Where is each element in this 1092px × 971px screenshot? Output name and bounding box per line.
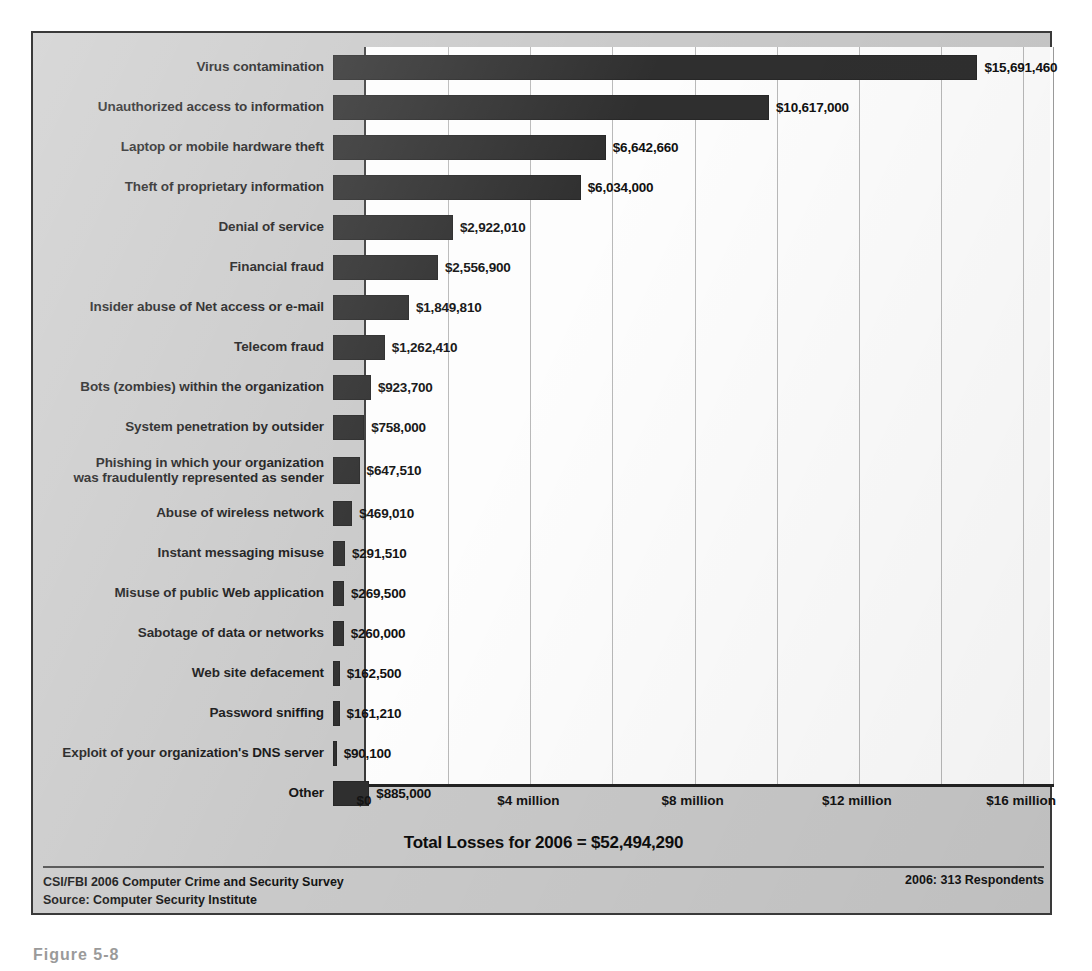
- bar: [333, 295, 409, 320]
- chart-panel: Virus contamination$15,691,460Unauthoriz…: [31, 31, 1052, 915]
- x-axis-tick-label: $4 million: [497, 793, 559, 808]
- category-label: Abuse of wireless network: [37, 505, 333, 520]
- bar: [333, 541, 345, 566]
- bar-row: Telecom fraud$1,262,410: [37, 327, 1050, 367]
- category-label: Misuse of public Web application: [37, 585, 333, 600]
- bar: [333, 621, 344, 646]
- bar-cell: $260,000: [333, 613, 1050, 653]
- footer-respondents: 2006: 313 Respondents: [905, 873, 1044, 887]
- category-label: Laptop or mobile hardware theft: [37, 139, 333, 154]
- bar-row: Bots (zombies) within the organization$9…: [37, 367, 1050, 407]
- bar-value-label: $6,642,660: [613, 140, 679, 155]
- bar-row: Misuse of public Web application$269,500: [37, 573, 1050, 613]
- category-label: Insider abuse of Net access or e-mail: [37, 299, 333, 314]
- bar-value-label: $469,010: [359, 506, 414, 521]
- bar: [333, 661, 340, 686]
- x-axis-tick-label: $12 million: [822, 793, 892, 808]
- bar-value-label: $2,556,900: [445, 260, 511, 275]
- bar-value-label: $1,262,410: [392, 340, 458, 355]
- bar-cell: $291,510: [333, 533, 1050, 573]
- bar: [333, 215, 453, 240]
- bar: [333, 95, 769, 120]
- bar-row: Laptop or mobile hardware theft$6,642,66…: [37, 127, 1050, 167]
- bar-cell: $647,510: [333, 447, 1050, 493]
- category-label: Instant messaging misuse: [37, 545, 333, 560]
- bar-cell: $758,000: [333, 407, 1050, 447]
- bar-cell: $1,262,410: [333, 327, 1050, 367]
- category-label: Virus contamination: [37, 59, 333, 74]
- bar-value-label: $923,700: [378, 380, 433, 395]
- bar-value-label: $161,210: [347, 706, 402, 721]
- x-axis-tick-label: $8 million: [661, 793, 723, 808]
- bar-row: Web site defacement$162,500: [37, 653, 1050, 693]
- bar-cell: $6,642,660: [333, 127, 1050, 167]
- bar-value-label: $90,100: [344, 746, 391, 761]
- bar-value-label: $269,500: [351, 586, 406, 601]
- bar-row: Password sniffing$161,210: [37, 693, 1050, 733]
- bar: [333, 335, 385, 360]
- bar-cell: $6,034,000: [333, 167, 1050, 207]
- footer-source-line: Source: Computer Security Institute: [43, 891, 344, 909]
- bar-row: Virus contamination$15,691,460: [37, 47, 1050, 87]
- bar-cell: $162,500: [333, 653, 1050, 693]
- footer-survey-title: CSI/FBI 2006 Computer Crime and Security…: [43, 873, 344, 891]
- bar-cell: $469,010: [333, 493, 1050, 533]
- bar-value-label: $647,510: [367, 463, 422, 478]
- bar: [333, 457, 360, 484]
- bar-row: Abuse of wireless network$469,010: [37, 493, 1050, 533]
- bar: [333, 375, 371, 400]
- bar: [333, 415, 364, 440]
- bar-value-label: $1,849,810: [416, 300, 482, 315]
- category-label: Financial fraud: [37, 259, 333, 274]
- bar-cell: $15,691,460: [333, 47, 1057, 87]
- bar-row: Phishing in which your organizationwas f…: [37, 447, 1050, 493]
- footer-source: CSI/FBI 2006 Computer Crime and Security…: [43, 873, 344, 909]
- bar: [333, 701, 340, 726]
- bar-chart: Virus contamination$15,691,460Unauthoriz…: [33, 33, 1054, 917]
- chart-footer: CSI/FBI 2006 Computer Crime and Security…: [43, 866, 1044, 909]
- bar-row: Denial of service$2,922,010: [37, 207, 1050, 247]
- figure-caption: Figure 5-8: [33, 946, 119, 968]
- bar-value-label: $758,000: [371, 420, 426, 435]
- category-label: Unauthorized access to information: [37, 99, 333, 114]
- category-label: Theft of proprietary information: [37, 179, 333, 194]
- bar-row: Financial fraud$2,556,900: [37, 247, 1050, 287]
- category-label: Other: [37, 785, 333, 800]
- bar-value-label: $260,000: [351, 626, 406, 641]
- bar-row: Instant messaging misuse$291,510: [37, 533, 1050, 573]
- bar-cell: $269,500: [333, 573, 1050, 613]
- plot-right-edge: [1053, 47, 1054, 784]
- total-losses-label: Total Losses for 2006 = $52,494,290: [33, 833, 1054, 853]
- bar-cell: $161,210: [333, 693, 1050, 733]
- bar-cell: $2,556,900: [333, 247, 1050, 287]
- bar: [333, 55, 977, 80]
- category-label: Telecom fraud: [37, 339, 333, 354]
- bar-row: Insider abuse of Net access or e-mail$1,…: [37, 287, 1050, 327]
- bar-value-label: $6,034,000: [588, 180, 654, 195]
- bar: [333, 135, 606, 160]
- category-label: Phishing in which your organizationwas f…: [37, 455, 333, 485]
- bar-value-label: $10,617,000: [776, 100, 849, 115]
- bar-cell: $1,849,810: [333, 287, 1050, 327]
- bar-value-label: $162,500: [347, 666, 402, 681]
- bar: [333, 581, 344, 606]
- bar-row: Exploit of your organization's DNS serve…: [37, 733, 1050, 773]
- bar: [333, 255, 438, 280]
- bar: [333, 175, 581, 200]
- bar-cell: $2,922,010: [333, 207, 1050, 247]
- bar-rows: Virus contamination$15,691,460Unauthoriz…: [37, 47, 1050, 813]
- bar-cell: $90,100: [333, 733, 1050, 773]
- bar: [333, 501, 352, 526]
- category-label: Exploit of your organization's DNS serve…: [37, 745, 333, 760]
- bar-value-label: $15,691,460: [984, 60, 1057, 75]
- category-label: Password sniffing: [37, 705, 333, 720]
- x-axis-tick-label: $0: [356, 793, 371, 808]
- category-label-line2: was fraudulently represented as sender: [37, 470, 324, 485]
- category-label: Bots (zombies) within the organization: [37, 379, 333, 394]
- bar-row: System penetration by outsider$758,000: [37, 407, 1050, 447]
- bar-value-label: $2,922,010: [460, 220, 526, 235]
- page-root: Virus contamination$15,691,460Unauthoriz…: [0, 0, 1092, 971]
- bar-cell: $10,617,000: [333, 87, 1050, 127]
- bar-cell: $923,700: [333, 367, 1050, 407]
- bar: [333, 741, 337, 766]
